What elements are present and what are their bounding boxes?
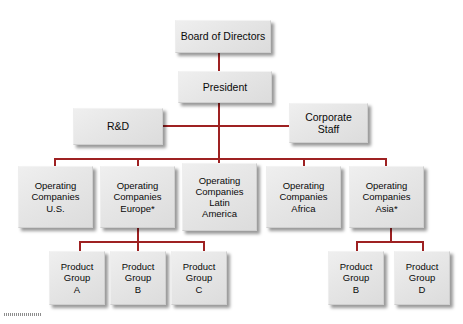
node-product-group-c[interactable]: Product Group C [171, 251, 227, 305]
node-product-group-d[interactable]: Product Group D [394, 251, 450, 305]
node-label: Operating Companies U.S. [28, 180, 82, 214]
node-label: Operating Companies Asia* [359, 180, 413, 214]
connector-drop-pg-d [422, 241, 424, 251]
connector-board-president [218, 52, 220, 72]
org-chart: Board of Directors President R&D Corpora… [0, 0, 463, 324]
connector-drop-pg-c [203, 241, 205, 251]
connector-europe-pg-bus [79, 241, 204, 243]
node-product-group-a[interactable]: Product Group A [49, 251, 105, 305]
connector-drop-pg-b-europe [137, 241, 139, 251]
node-corporate-staff[interactable]: Corporate Staff [289, 103, 368, 143]
node-operating-companies-us[interactable]: Operating Companies U.S. [18, 166, 93, 228]
connector-asia-pg-bus [356, 241, 424, 243]
node-rnd[interactable]: R&D [73, 108, 163, 145]
node-label: President [200, 81, 250, 93]
connector-drop-pg-a [79, 241, 81, 251]
connector-drop-pg-b-asia [356, 241, 358, 251]
node-label: Operating Companies Latin America [192, 175, 246, 220]
node-board-of-directors[interactable]: Board of Directors [175, 20, 271, 53]
node-operating-companies-africa[interactable]: Operating Companies Africa [266, 166, 341, 228]
node-label: Corporate Staff [302, 111, 355, 136]
node-label: R&D [104, 120, 132, 132]
page-edge-artifact [4, 313, 42, 316]
node-operating-companies-latin-america[interactable]: Operating Companies Latin America [182, 163, 257, 231]
node-operating-companies-europe[interactable]: Operating Companies Europe* [100, 166, 175, 228]
node-label: Product Group B [119, 261, 158, 295]
node-label: Product Group D [403, 261, 442, 295]
node-product-group-b-asia[interactable]: Product Group B [328, 251, 384, 305]
connector-staff-crossbar [162, 125, 289, 127]
connector-operating-bus [54, 158, 386, 160]
connector-asia-stem [390, 228, 392, 242]
node-label: Product Group C [180, 261, 219, 295]
node-label: Operating Companies Africa [276, 180, 330, 214]
node-president[interactable]: President [178, 71, 272, 103]
node-label: Product Group A [58, 261, 97, 295]
connector-europe-stem [137, 228, 139, 242]
node-label: Product Group B [337, 261, 376, 295]
node-product-group-b-europe[interactable]: Product Group B [110, 251, 166, 305]
node-label: Board of Directors [178, 30, 269, 42]
node-label: Operating Companies Europe* [110, 180, 164, 214]
node-operating-companies-asia[interactable]: Operating Companies Asia* [349, 166, 424, 228]
